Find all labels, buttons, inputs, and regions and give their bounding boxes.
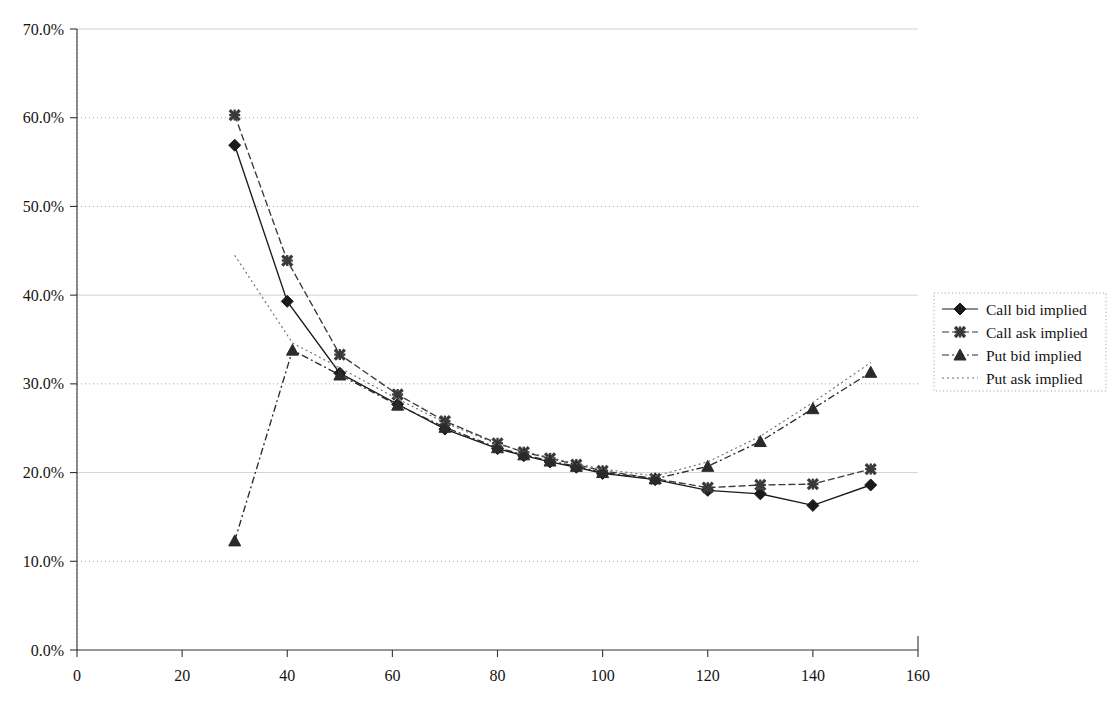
data-point-marker: [807, 499, 819, 511]
series-put-ask-implied: [235, 255, 871, 476]
data-point-marker: [755, 479, 766, 490]
data-point-marker: [865, 366, 877, 377]
data-point-marker: [229, 110, 240, 121]
data-point-marker: [229, 139, 241, 151]
x-tick-label: 60: [384, 667, 400, 684]
y-tick-label: 40.0%: [23, 287, 64, 304]
chart-legend: Call bid impliedCall ask impliedPut bid …: [934, 293, 1106, 391]
series-put-bid-implied: [229, 344, 877, 546]
x-tick-label: 80: [490, 667, 506, 684]
series-line: [235, 145, 871, 505]
grid-lines: [77, 29, 918, 650]
legend-item-put-ask-implied[interactable]: Put ask implied: [942, 370, 1083, 387]
legend-item-label: Put bid implied: [986, 347, 1082, 364]
x-tick-label: 160: [906, 667, 930, 684]
x-tick-label: 120: [696, 667, 720, 684]
y-tick-label: 70.0%: [23, 21, 64, 38]
y-axis-tick-labels: 0.0%10.0%20.0%30.0%40.0%50.0%60.0%70.0%: [23, 21, 64, 659]
y-tick-label: 10.0%: [23, 553, 64, 570]
data-point-marker: [865, 464, 876, 475]
chart-container: 0.0%10.0%20.0%30.0%40.0%50.0%60.0%70.0% …: [0, 0, 1115, 710]
series-line: [235, 350, 871, 541]
x-tick-label: 100: [591, 667, 615, 684]
x-tick-label: 20: [174, 667, 190, 684]
series-line: [235, 115, 871, 488]
data-point-marker: [865, 479, 877, 491]
legend-item-label: Call bid implied: [986, 301, 1087, 318]
legend-item-label: Put ask implied: [986, 370, 1083, 387]
data-series: [229, 110, 877, 546]
x-tick-label: 0: [73, 667, 81, 684]
legend-marker-triangle-icon: [954, 349, 966, 360]
data-point-marker: [282, 255, 293, 266]
axes: [70, 29, 918, 657]
data-point-marker: [702, 460, 714, 471]
data-point-marker: [807, 479, 818, 490]
y-tick-label: 60.0%: [23, 109, 64, 126]
x-tick-label: 140: [801, 667, 825, 684]
implied-volatility-chart: 0.0%10.0%20.0%30.0%40.0%50.0%60.0%70.0% …: [0, 0, 1115, 710]
series-call-ask-implied: [229, 110, 876, 494]
legend-item-call-bid-implied[interactable]: Call bid implied: [942, 301, 1087, 318]
legend-marker-diamond-icon: [954, 303, 966, 315]
data-point-marker: [281, 295, 293, 307]
legend-item-call-ask-implied[interactable]: Call ask implied: [942, 324, 1088, 341]
y-tick-label: 0.0%: [31, 642, 64, 659]
legend-marker-cross-icon: [955, 327, 966, 338]
y-tick-label: 30.0%: [23, 375, 64, 392]
data-point-marker: [754, 436, 766, 447]
data-point-marker: [807, 403, 819, 414]
data-point-marker: [702, 482, 713, 493]
legend-item-label: Call ask implied: [986, 324, 1088, 341]
data-point-marker: [229, 535, 241, 546]
y-tick-label: 50.0%: [23, 198, 64, 215]
series-line: [235, 255, 871, 476]
legend-item-put-bid-implied[interactable]: Put bid implied: [942, 347, 1082, 364]
y-tick-label: 20.0%: [23, 464, 64, 481]
x-axis-tick-labels: 020406080100120140160: [73, 667, 930, 684]
data-point-marker: [334, 349, 345, 360]
x-tick-label: 40: [279, 667, 295, 684]
